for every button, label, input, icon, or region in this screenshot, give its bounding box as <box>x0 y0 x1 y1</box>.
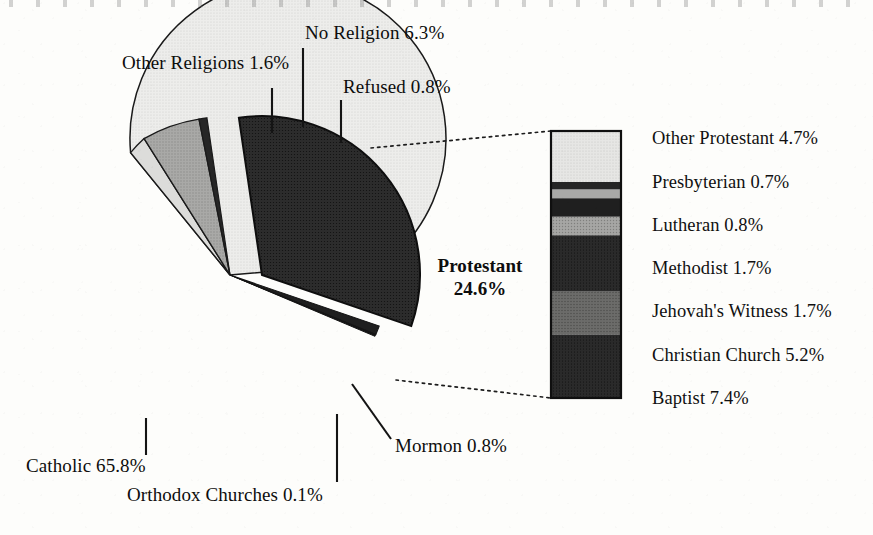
label-refused: Refused 0.8% <box>343 76 451 98</box>
legend-item-christian-church: Christian Church 5.2% <box>652 345 824 366</box>
label-protestant-name: Protestant <box>437 255 522 276</box>
legend-item-jehovahs-witness: Jehovah's Witness 1.7% <box>652 301 832 322</box>
bar-segment-christian-church <box>551 235 621 291</box>
legend-item-baptist: Baptist 7.4% <box>652 388 749 409</box>
bar-segment-methodist <box>551 198 621 217</box>
label-no-religion: No Religion 6.3% <box>305 22 444 44</box>
bar-segment-baptist-upper <box>551 292 621 335</box>
figure-canvas: Other Religions 1.6% No Religion 6.3% Re… <box>0 0 873 535</box>
label-catholic: Catholic 65.8% <box>26 455 146 477</box>
bar-segment-jehovahs-witness <box>551 217 621 236</box>
label-orthodox-churches: Orthodox Churches 0.1% <box>127 484 323 506</box>
legend-item-other-protestant: Other Protestant 4.7% <box>652 128 818 149</box>
legend-item-methodist: Methodist 1.7% <box>652 258 772 279</box>
label-other-religions: Other Religions 1.6% <box>122 52 289 74</box>
protestant-breakdown-bar <box>551 131 621 398</box>
legend-item-lutheran: Lutheran 0.8% <box>652 215 763 236</box>
label-mormon: Mormon 0.8% <box>395 435 507 457</box>
bar-segment-other-protestant <box>551 131 621 182</box>
bar-segment-presbyterian <box>551 182 621 190</box>
label-protestant-value: 24.6% <box>454 278 507 299</box>
callout-connector-bottom <box>396 380 551 398</box>
leader-mormon <box>352 384 391 439</box>
label-protestant: Protestant 24.6% <box>425 255 535 301</box>
legend-item-presbyterian: Presbyterian 0.7% <box>652 172 789 193</box>
bar-segment-lutheran <box>551 190 621 199</box>
bar-segment-baptist <box>551 335 621 398</box>
